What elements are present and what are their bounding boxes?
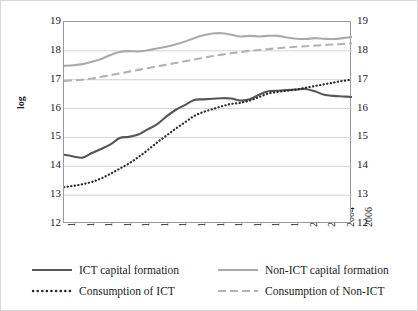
y-axis-tick-label-right: 17	[357, 73, 387, 84]
y-axis-tick-label: 12	[31, 217, 61, 228]
legend-item-ict-capital-formation: ICT capital formation	[31, 264, 217, 276]
x-axis-tick-label: 2006	[364, 207, 374, 227]
y-axis-tick-label: 17	[31, 73, 61, 84]
y-axis-tick-label: 14	[31, 159, 61, 170]
dashed-gray-line-icon	[217, 285, 259, 297]
legend-label: Non-ICT capital formation	[265, 264, 389, 276]
plot-area	[63, 21, 351, 223]
solid-gray-line-icon	[217, 264, 259, 276]
y-axis-tick-label-right: 14	[357, 159, 387, 170]
legend-item-consumption-of-ict: Consumption of ICT	[31, 285, 217, 297]
y-axis-title: log	[15, 96, 26, 109]
series-layer	[64, 22, 352, 224]
legend-item-consumption-of-non-ict: Consumption of Non-ICT	[217, 285, 403, 297]
legend-row: ICT capital formation Non-ICT capital fo…	[31, 259, 403, 280]
legend-label: ICT capital formation	[79, 264, 179, 276]
y-axis-tick-label: 18	[31, 44, 61, 55]
y-axis-tick-label-right: 18	[357, 44, 387, 55]
legend-item-non-ict-capital-formation: Non-ICT capital formation	[217, 264, 403, 276]
y-axis-tick-label: 16	[31, 102, 61, 113]
y-axis-tick-label-right: 15	[357, 130, 387, 141]
legend-label: Consumption of ICT	[79, 285, 175, 297]
y-axis-tick-label: 15	[31, 130, 61, 141]
series-line-non-ict-capital-formation	[64, 33, 352, 66]
y-axis-tick-label-right: 16	[357, 102, 387, 113]
series-line-consumption-of-ict	[64, 80, 352, 187]
gridlines	[64, 51, 352, 195]
series-line-ict-capital-formation	[64, 89, 352, 158]
legend-row: Consumption of ICT Consumption of Non-IC…	[31, 280, 403, 301]
solid-dark-line-icon	[31, 264, 73, 276]
chart-figure: log 1918171615141312 1918171615141312 19…	[0, 0, 418, 311]
y-axis-tick-label: 19	[31, 15, 61, 26]
y-axis-tick-label-right: 13	[357, 188, 387, 199]
legend-label: Consumption of Non-ICT	[265, 285, 384, 297]
series-line-consumption-of-non-ict	[64, 43, 352, 81]
y-axis-tick-label-right: 19	[357, 15, 387, 26]
dotted-dark-line-icon	[31, 285, 73, 297]
y-axis-tick-label: 13	[31, 188, 61, 199]
chart-legend: ICT capital formation Non-ICT capital fo…	[31, 259, 403, 301]
